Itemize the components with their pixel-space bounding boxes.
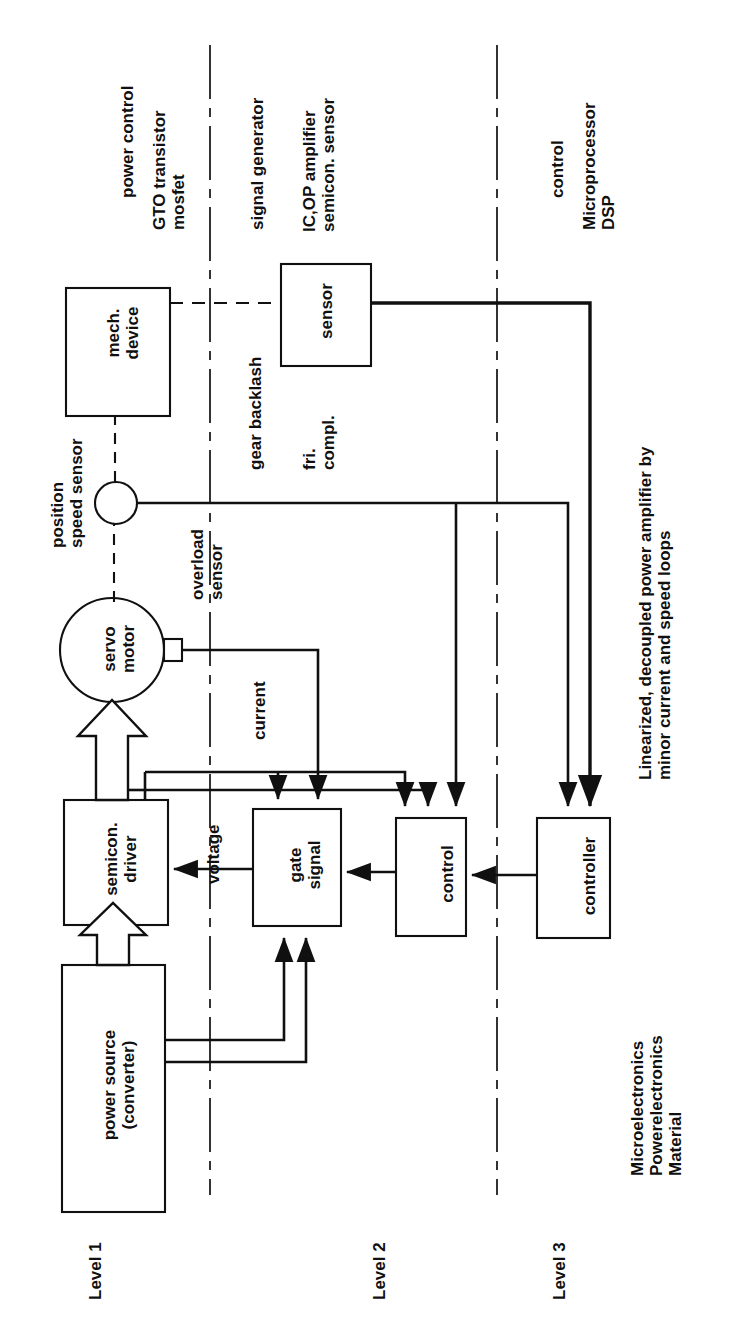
- diagram-canvas: power control GTO transistormosfet signa…: [0, 0, 738, 1338]
- signal-label-overload-sensor: overloadsensor: [188, 529, 226, 600]
- servo-motor-terminal: [164, 639, 182, 661]
- block-label-mech-device: mech.device: [104, 274, 142, 392]
- signal-driver-bus-upper: [145, 790, 428, 806]
- signal-sensor-to-controller: [371, 303, 590, 806]
- block-label-semicon-driver: semicon.driver: [102, 800, 140, 918]
- caption-bottom: MicroelectronicsPowerelectronicsMaterial: [628, 1035, 685, 1176]
- signal-source-to-gate-a: [165, 938, 284, 1040]
- tech-label-gto-mosfet: GTO transistormosfet: [150, 110, 188, 230]
- block-label-control: control: [438, 818, 457, 930]
- tech-label-control: control: [548, 140, 567, 198]
- signal-label-gear-backlash: gear backlash: [246, 357, 265, 470]
- level-label-2: Level 2: [370, 1242, 389, 1300]
- signal-label-fri-compl: fri.compl.: [300, 415, 338, 470]
- tech-label-signal-generator: signal generator: [248, 98, 267, 230]
- tech-label-power-control: power control: [118, 86, 137, 198]
- caption-main: Linearized, decoupled power amplifier by…: [636, 447, 674, 780]
- block-label-sensor: sensor: [317, 266, 336, 356]
- block-controller: [537, 818, 610, 938]
- level-label-1: Level 1: [86, 1242, 105, 1300]
- tech-label-ic-op-amplifier: IC,OP amplifiersemicon. sensor: [300, 98, 338, 232]
- block-label-servo-motor: servomotor: [100, 599, 138, 699]
- block-label-controller: controller: [580, 818, 599, 934]
- signal-label-current: current: [250, 681, 269, 740]
- level-label-3: Level 3: [550, 1242, 569, 1300]
- block-label-gate-signal: gatesignal: [286, 810, 324, 920]
- power-arrow-driver-to-motor: [78, 700, 146, 800]
- signal-label-position-speed-sensor: positionspeed sensor: [48, 438, 86, 548]
- tech-label-microprocessor: MicroprocessorDSP: [580, 102, 618, 230]
- block-label-power-source: power source(converter): [100, 965, 138, 1205]
- signal-label-voltage: voltage: [204, 824, 223, 884]
- block-speed-sensor: [95, 482, 137, 524]
